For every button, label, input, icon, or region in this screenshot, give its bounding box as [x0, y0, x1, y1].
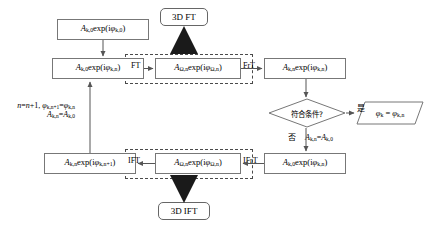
branch-label-yes: 是: [357, 104, 365, 113]
terminal-3d-ft-label: 3D FT: [172, 13, 196, 22]
node-input-field: Ak,0exp(iφk,0): [57, 19, 149, 40]
feedback-note-line1: n=n+1, φk,n+1=φk,n: [17, 101, 75, 110]
decision-condition-met: 符合条件?: [268, 98, 346, 128]
feedback-note: n=n+1, φk,n+1=φk,n Ak,n=Ak,0: [3, 101, 75, 120]
branch-label-no: 否: [288, 133, 296, 142]
edge-label-ift: IFT: [128, 156, 140, 165]
terminal-3d-ift: 3D IFT: [158, 202, 210, 220]
node-ft-output-label: AΩ,nexp(iφΩ,n): [174, 63, 221, 73]
terminal-3d-ft: 3D FT: [160, 8, 208, 26]
result-phase-output: φk = φk,n: [356, 101, 424, 125]
decision-label: 符合条件?: [291, 108, 323, 119]
edge-label-ft: FT: [131, 61, 140, 70]
node-input-field-label: Ak,0exp(iφk,0): [81, 24, 126, 34]
node-ft-output: AΩ,nexp(iφΩ,n): [155, 58, 241, 79]
node-object-plane-label: Ak,0exp(iφk,n): [76, 63, 121, 73]
edge-label-no-assignment: Ak,n=Ak,0: [305, 133, 333, 142]
flowchart-canvas: 3D FT 3D IFT Ak,0exp(iφk,0) Ak,0exp(iφk,…: [0, 0, 428, 230]
node-frt-output: Ak,nexp(iφk,n): [264, 58, 346, 79]
node-constrained-field: Ak,0exp(iφk,n): [264, 153, 346, 174]
node-frt-output-label: Ak,nexp(iφk,n): [283, 63, 328, 73]
node-ift-output-label: Ak,nexp(iφk,n+1): [65, 158, 116, 168]
node-ift-output: Ak,nexp(iφk,n+1): [44, 153, 136, 174]
edge-label-frt: FrT: [243, 61, 255, 70]
terminal-3d-ift-label: 3D IFT: [171, 207, 198, 216]
feedback-note-line2: Ak,n=Ak,0: [47, 110, 75, 119]
node-constrained-field-label: Ak,0exp(iφk,n): [283, 158, 328, 168]
edge-label-ifrt: IFrT: [243, 156, 258, 165]
result-phase-label: φk = φk,n: [376, 108, 405, 118]
node-ifrt-output: AΩ,nexp(iφΩ,n): [155, 153, 241, 174]
node-ifrt-output-label: AΩ,nexp(iφΩ,n): [174, 158, 221, 168]
